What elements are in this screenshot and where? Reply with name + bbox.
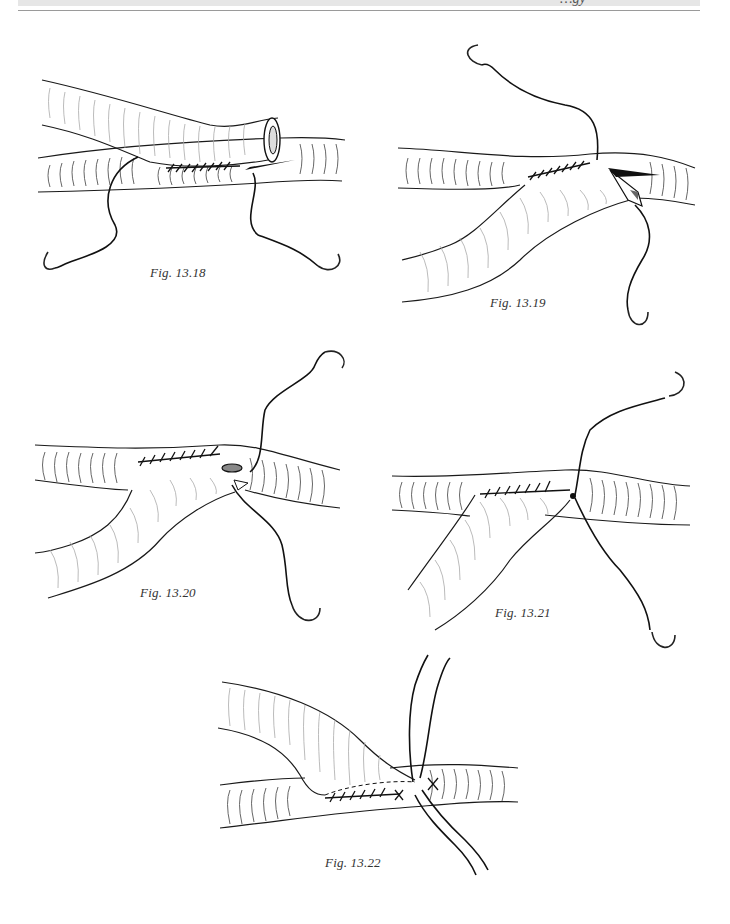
figure-caption: Fig. 13.21 [495,605,551,621]
figure-13-18: Fig. 13.18 [0,40,360,290]
illustration-anastomosis-13-18 [0,40,360,290]
figure-13-19: Fig. 13.19 [380,40,730,340]
running-header-band [18,0,700,6]
figure-caption: Fig. 13.18 [150,265,206,281]
illustration-anastomosis-13-21 [380,360,730,650]
figure-13-22: Fig. 13.22 [200,650,530,910]
illustration-anastomosis-13-19 [380,40,730,340]
figure-caption: Fig. 13.20 [140,585,196,601]
figure-caption: Fig. 13.22 [325,855,381,871]
figure-13-20: Fig. 13.20 [20,340,380,630]
running-header-text: …gy [560,0,586,7]
figure-13-21: Fig. 13.21 [380,360,730,650]
header-rule [18,10,700,11]
illustration-anastomosis-13-20 [20,340,380,630]
figure-caption: Fig. 13.19 [490,295,546,311]
illustration-anastomosis-13-22 [200,650,530,910]
